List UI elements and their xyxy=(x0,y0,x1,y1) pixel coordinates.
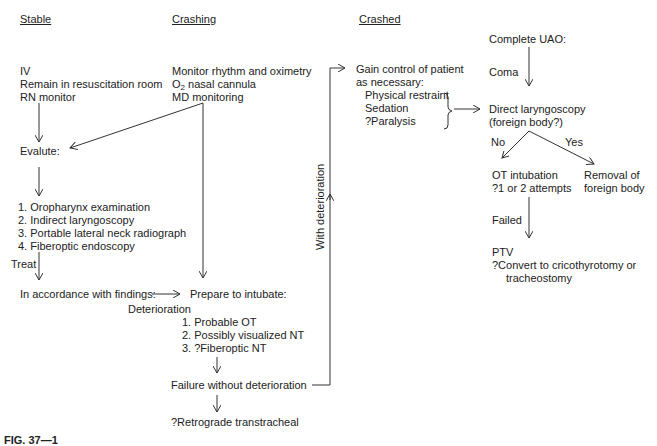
o2-text: nasal cannula xyxy=(185,78,256,90)
header-crashing: Crashing xyxy=(172,13,216,26)
deterioration-label: Deterioration xyxy=(128,303,191,316)
coma-label: Coma xyxy=(489,66,518,79)
complete-uao: Complete UAO: xyxy=(489,33,566,46)
convert-2: tracheostomy xyxy=(506,272,572,285)
failed-label: Failed xyxy=(492,214,522,227)
intubate-option-2: 2. Possibly visualized NT xyxy=(182,329,304,342)
stable-resus-room: Remain in resuscitation room xyxy=(20,78,162,91)
intubate-option-1: 1. Probable OT xyxy=(182,316,257,329)
convert-1: ?Convert to cricothyrotomy or xyxy=(492,259,636,272)
ptv-label: PTV xyxy=(492,246,513,259)
prepare-intubate: Prepare to intubate: xyxy=(190,288,287,301)
with-deterioration-label: With deterioration xyxy=(314,164,326,250)
stable-iv: IV xyxy=(20,65,30,78)
direct-laryngoscopy-2: (foreign body?) xyxy=(489,116,563,129)
ot-intubation-2: ?1 or 2 attempts xyxy=(492,182,572,195)
evaluate-label: Evalute: xyxy=(20,145,60,158)
eval-step-1: 1. Oropharynx examination xyxy=(18,201,150,214)
retrograde-label: ?Retrograde transtracheal xyxy=(171,416,299,429)
intubate-option-3: 3. ?Fiberoptic NT xyxy=(182,342,266,355)
direct-laryngoscopy-1: Direct laryngoscopy xyxy=(489,103,586,116)
eval-step-3: 3. Portable lateral neck radiograph xyxy=(18,227,186,240)
removal-2: foreign body xyxy=(584,182,645,195)
failure-label: Failure without deterioration xyxy=(171,379,307,392)
ot-intubation-1: OT intubation xyxy=(492,169,558,182)
o2-symbol: O xyxy=(172,78,181,90)
crashing-o2: O2 nasal cannula xyxy=(172,78,256,91)
gain-control-2: as necessary: xyxy=(356,76,424,89)
branch-yes: Yes xyxy=(565,136,583,149)
header-crashed: Crashed xyxy=(359,13,401,26)
crashing-md: MD monitoring xyxy=(172,91,244,104)
measure-paralysis: ?Paralysis xyxy=(365,115,416,128)
findings-label: In accordance with findings: xyxy=(20,288,156,301)
figure-caption: FIG. 37—1 xyxy=(4,434,58,446)
eval-step-4: 4. Fiberoptic endoscopy xyxy=(18,240,135,253)
stable-rn-monitor: RN monitor xyxy=(20,91,76,104)
header-stable: Stable xyxy=(20,13,51,26)
eval-step-2: 2. Indirect laryngoscopy xyxy=(18,214,134,227)
gain-control-1: Gain control of patient xyxy=(356,63,464,76)
treat-label: Treat xyxy=(11,258,36,271)
crashing-monitor: Monitor rhythm and oximetry xyxy=(172,65,311,78)
measure-sedation: Sedation xyxy=(365,102,408,115)
branch-no: No xyxy=(491,136,505,149)
measure-restraint: Physical restraint xyxy=(365,89,449,102)
removal-1: Removal of xyxy=(584,169,640,182)
